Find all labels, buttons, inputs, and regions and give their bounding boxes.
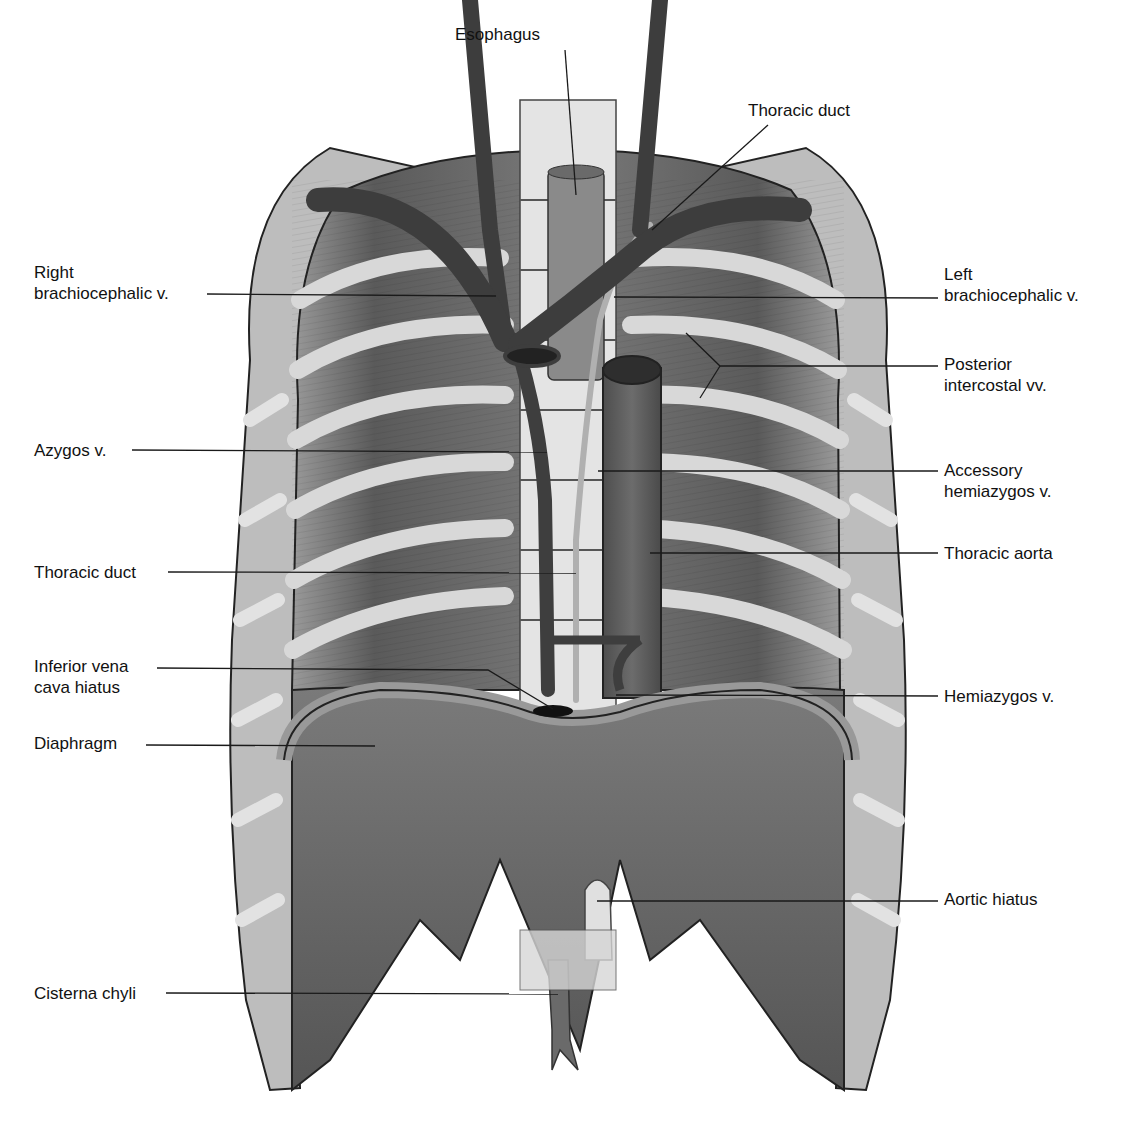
label-inferior-vena-cava-hiatus: Inferior venacava hiatus — [34, 656, 129, 698]
label-thoracic-aorta: Thoracic aorta — [944, 543, 1053, 564]
label-esophagus: Esophagus — [455, 24, 540, 45]
leader-cisterna-chyli — [166, 993, 558, 994]
label-azygos-v: Azygos v. — [34, 440, 106, 461]
label-thoracic-duct-top: Thoracic duct — [748, 100, 850, 121]
label-accessory-hemiazygos-v: Accessoryhemiazygos v. — [944, 460, 1051, 502]
label-text: Accessory — [944, 460, 1051, 481]
thorax-illustration — [0, 0, 1136, 1132]
label-text: Azygos v. — [34, 440, 106, 461]
label-text: Thoracic aorta — [944, 543, 1053, 564]
label-thoracic-duct: Thoracic duct — [34, 562, 136, 583]
label-text: Right — [34, 262, 169, 283]
label-text: Esophagus — [455, 24, 540, 45]
label-posterior-intercostal-vv: Posteriorintercostal vv. — [944, 354, 1047, 396]
label-text: cava hiatus — [34, 677, 129, 698]
label-right-brachiocephalic-v: Rightbrachiocephalic v. — [34, 262, 169, 304]
ivc-hiatus — [533, 705, 573, 717]
label-hemiazygos-v: Hemiazygos v. — [944, 686, 1054, 707]
label-text: Posterior — [944, 354, 1047, 375]
label-text: brachiocephalic v. — [944, 285, 1079, 306]
label-text: hemiazygos v. — [944, 481, 1051, 502]
label-text: Hemiazygos v. — [944, 686, 1054, 707]
label-text: Cisterna chyli — [34, 983, 136, 1004]
label-text: Thoracic duct — [34, 562, 136, 583]
label-text: Inferior vena — [34, 656, 129, 677]
label-aortic-hiatus: Aortic hiatus — [944, 889, 1038, 910]
label-text: brachiocephalic v. — [34, 283, 169, 304]
label-text: Aortic hiatus — [944, 889, 1038, 910]
label-text: Thoracic duct — [748, 100, 850, 121]
label-text: Left — [944, 264, 1079, 285]
label-cisterna-chyli: Cisterna chyli — [34, 983, 136, 1004]
label-text: intercostal vv. — [944, 375, 1047, 396]
label-text: Diaphragm — [34, 733, 117, 754]
label-left-brachiocephalic-v: Leftbrachiocephalic v. — [944, 264, 1079, 306]
label-diaphragm: Diaphragm — [34, 733, 117, 754]
